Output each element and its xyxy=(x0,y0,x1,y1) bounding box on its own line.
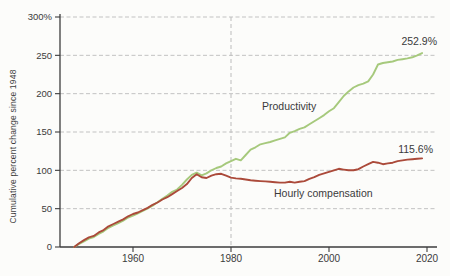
x-tick-label: 1980 xyxy=(220,253,243,264)
hourly-compensation-series-label: Hourly compensation xyxy=(274,187,373,199)
x-tick-label: 2020 xyxy=(416,253,439,264)
y-tick-label: 150 xyxy=(36,126,52,137)
hourly-compensation-end-value: 115.6% xyxy=(395,143,433,155)
productivity-pay-gap-chart: 050100150200250300%1960198020002020 Cumu… xyxy=(0,0,450,276)
tick-labels: 050100150200250300%1960198020002020 xyxy=(28,11,439,264)
y-tick-label: 0 xyxy=(47,241,52,252)
y-tick-label: 250 xyxy=(36,50,52,61)
series-lines xyxy=(74,53,422,247)
x-tick-label: 2000 xyxy=(318,253,341,264)
y-tick-label: 200 xyxy=(36,88,52,99)
y-tick-label: 300% xyxy=(28,11,53,22)
productivity-end-value: 252.9% xyxy=(397,35,437,47)
x-tick-label: 1960 xyxy=(122,253,145,264)
hourly-compensation-line xyxy=(74,158,422,247)
y-axis-title: Cumulative percent change since 1948 xyxy=(8,32,19,262)
y-tick-label: 50 xyxy=(41,203,52,214)
axes xyxy=(55,14,437,252)
chart-canvas: 050100150200250300%1960198020002020 xyxy=(0,0,450,276)
y-tick-label: 100 xyxy=(36,165,52,176)
productivity-series-label: Productivity xyxy=(262,100,316,112)
